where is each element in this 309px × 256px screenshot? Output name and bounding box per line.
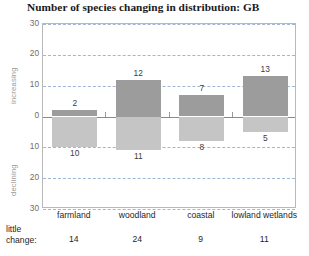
little-change-value: 11: [260, 234, 269, 244]
page-title: Number of species changing in distributi…: [27, 1, 297, 13]
bar-declining[interactable]: [52, 117, 97, 148]
x-axis-tick-label: farmland: [57, 210, 90, 220]
bar-group[interactable]: 210: [52, 24, 97, 207]
little-change-values: 1424911: [42, 234, 296, 246]
y-axis-tick-label: 10: [21, 80, 39, 89]
axis-tick: [232, 112, 233, 117]
bar-value-declining: 5: [263, 134, 268, 143]
bar-group[interactable]: 135: [243, 24, 288, 207]
y-axis-labels: 3020100102030: [18, 23, 39, 208]
y-axis-tick-label: 30: [21, 19, 39, 28]
bar-value-increasing: 12: [134, 69, 143, 78]
x-axis-tick-label: lowland wetlands: [232, 210, 297, 220]
plot-area: 210121178135: [43, 24, 295, 207]
x-axis-tick-label: coastal: [187, 210, 214, 220]
little-change-value: 24: [132, 234, 142, 244]
y-axis-tick-label: 20: [21, 173, 39, 182]
bar-value-declining: 8: [199, 143, 204, 152]
little-change-value: 9: [198, 234, 203, 244]
little-change-label-line1: little: [6, 224, 37, 235]
y-axis-tick-label: 10: [21, 142, 39, 151]
little-change-label: little change:: [6, 224, 37, 245]
bar-increasing[interactable]: [116, 80, 161, 117]
bar-value-declining: 10: [70, 149, 79, 158]
y-axis-tick-label: 30: [21, 204, 39, 213]
axis-tick: [169, 112, 170, 117]
bar-increasing[interactable]: [179, 95, 224, 117]
bar-value-increasing: 2: [72, 99, 77, 108]
bar-group[interactable]: 78: [179, 24, 224, 207]
little-change-label-line2: change:: [6, 235, 37, 246]
bar-value-increasing: 13: [261, 65, 270, 74]
y-axis-tick-label: 20: [21, 49, 39, 58]
little-change-value: 14: [69, 234, 79, 244]
y-axis-tick-label: 0: [21, 111, 39, 120]
bar-increasing[interactable]: [243, 76, 288, 116]
y-axis-caption-declining: declining: [9, 164, 18, 196]
bar-declining[interactable]: [243, 117, 288, 132]
plot-frame: 210121178135: [42, 23, 296, 208]
bar-group[interactable]: 1211: [116, 24, 161, 207]
bar-value-increasing: 7: [199, 84, 204, 93]
x-axis-tick-label: woodland: [119, 210, 156, 220]
bar-value-declining: 11: [134, 152, 143, 161]
chart-screenshot: Number of species changing in distributi…: [0, 0, 309, 256]
x-axis-category-labels: farmlandwoodlandcoastallowland wetlands: [42, 210, 296, 223]
y-axis-caption-increasing: increasing: [9, 67, 18, 104]
bar-declining[interactable]: [116, 117, 161, 151]
axis-tick: [105, 112, 106, 117]
bar-declining[interactable]: [179, 117, 224, 142]
